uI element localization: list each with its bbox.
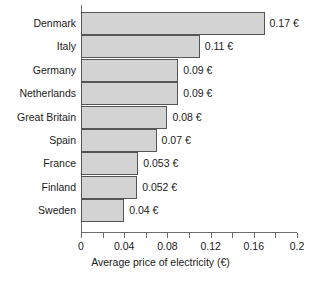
bar-row: Finland0.052 € [0, 176, 321, 199]
category-label: Italy [57, 35, 76, 58]
bar-row: Italy0.11 € [0, 35, 321, 58]
bar[interactable] [81, 59, 178, 82]
bar-value-label: 0.09 € [183, 82, 212, 105]
bar-row: France0.053 € [0, 152, 321, 175]
x-tick [103, 233, 104, 238]
x-tick [189, 233, 190, 238]
x-tick [232, 233, 233, 238]
x-tick [275, 233, 276, 238]
x-tick-label: 0 [78, 240, 84, 252]
bar-row: Germany0.09 € [0, 59, 321, 82]
x-tick-label: 0.16 [244, 240, 264, 252]
category-label: Great Britain [17, 106, 76, 129]
bar[interactable] [81, 106, 167, 129]
x-tick [146, 233, 147, 238]
bar-row: Denmark0.17 € [0, 12, 321, 35]
category-label: Spain [49, 129, 76, 152]
x-tick [211, 233, 212, 238]
x-tick-label: 0.12 [200, 240, 220, 252]
bar[interactable] [81, 176, 137, 199]
category-label: Netherlands [19, 82, 76, 105]
category-label: Sweden [38, 199, 76, 222]
bar[interactable] [81, 12, 265, 35]
x-tick [124, 233, 125, 238]
bar-row: Great Britain0.08 € [0, 106, 321, 129]
category-label: Denmark [33, 12, 76, 35]
bar[interactable] [81, 152, 138, 175]
category-label: Finland [42, 176, 76, 199]
bar-value-label: 0.11 € [205, 35, 233, 58]
x-tick-label: 0.04 [114, 240, 134, 252]
x-tick [254, 233, 255, 238]
bar[interactable] [81, 199, 124, 222]
bar-value-label: 0.07 € [162, 129, 191, 152]
category-label: France [43, 152, 76, 175]
bar-chart: 00.040.080.120.160.2 Denmark0.17 €Italy0… [0, 0, 321, 281]
x-axis-title: Average price of electricity (€) [0, 256, 321, 268]
bar[interactable] [81, 82, 178, 105]
x-tick [297, 233, 298, 238]
bar-value-label: 0.053 € [143, 152, 178, 175]
bar-row: Spain0.07 € [0, 129, 321, 152]
bar-value-label: 0.17 € [270, 12, 299, 35]
bar-value-label: 0.04 € [129, 199, 158, 222]
x-tick-label: 0.2 [290, 240, 305, 252]
x-tick [81, 233, 82, 238]
x-tick-label: 0.08 [157, 240, 177, 252]
bar-row: Sweden0.04 € [0, 199, 321, 222]
plot-area: 00.040.080.120.160.2 Denmark0.17 €Italy0… [0, 0, 321, 281]
bar-value-label: 0.08 € [172, 106, 201, 129]
bar[interactable] [81, 129, 157, 152]
x-tick [167, 233, 168, 238]
bar[interactable] [81, 35, 200, 58]
bar-row: Netherlands0.09 € [0, 82, 321, 105]
category-label: Germany [33, 59, 76, 82]
bar-value-label: 0.052 € [142, 176, 177, 199]
bar-value-label: 0.09 € [183, 59, 212, 82]
